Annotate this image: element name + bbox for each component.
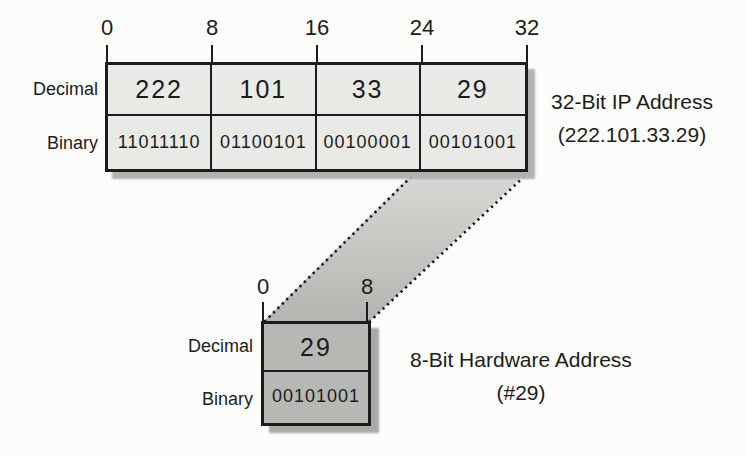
hw-bit-label-8: 8 bbox=[343, 274, 391, 300]
bit-tick-16 bbox=[316, 45, 318, 63]
bit-label-8: 8 bbox=[188, 15, 236, 41]
bit-label-16: 16 bbox=[293, 15, 341, 41]
hw-bit-tick-8 bbox=[366, 302, 368, 322]
ip-caption-line1: 32-Bit IP Address bbox=[531, 85, 733, 118]
ip-decimal-octet-2: 101 bbox=[212, 65, 316, 116]
ip-binary-octet-3: 00100001 bbox=[317, 116, 421, 169]
hardware-address-table: 29 00101001 bbox=[261, 321, 371, 426]
ip-decimal-octet-3: 33 bbox=[317, 65, 421, 116]
hw-caption-line1: 8-Bit Hardware Address bbox=[396, 343, 646, 376]
ip-address-caption: 32-Bit IP Address (222.101.33.29) bbox=[531, 85, 733, 151]
hw-decimal-row: 29 bbox=[264, 324, 368, 372]
hw-bit-label-0: 0 bbox=[239, 274, 287, 300]
bit-label-24: 24 bbox=[398, 15, 446, 41]
ip-binary-octet-1: 11011110 bbox=[108, 116, 212, 169]
ip-decimal-octet-4: 29 bbox=[421, 65, 525, 116]
bit-tick-0 bbox=[106, 45, 108, 63]
hw-binary-row-label: Binary bbox=[103, 389, 253, 410]
ip-decimal-row-label: Decimal bbox=[0, 79, 98, 100]
bit-label-32: 32 bbox=[503, 15, 551, 41]
funnel-shape bbox=[262, 170, 529, 323]
hardware-address-caption: 8-Bit Hardware Address (#29) bbox=[396, 343, 646, 409]
bit-tick-24 bbox=[421, 45, 423, 63]
hw-caption-line2: (#29) bbox=[396, 376, 646, 409]
ip-binary-row: 11011110 01100101 00100001 00101001 bbox=[108, 116, 525, 169]
hw-decimal-row-label: Decimal bbox=[103, 336, 253, 357]
ip-to-hardware-address-diagram: 0 8 16 24 32 222 101 33 29 11011110 0110… bbox=[0, 0, 746, 456]
ip-decimal-row: 222 101 33 29 bbox=[108, 65, 525, 116]
ip-binary-octet-2: 01100101 bbox=[212, 116, 316, 169]
hw-bit-tick-0 bbox=[262, 302, 264, 322]
bit-label-0: 0 bbox=[83, 15, 131, 41]
hw-decimal-octet: 29 bbox=[264, 324, 368, 372]
ip-caption-line2: (222.101.33.29) bbox=[531, 118, 733, 151]
hw-binary-octet: 00101001 bbox=[264, 372, 368, 421]
ip-decimal-octet-1: 222 bbox=[108, 65, 212, 116]
ip-address-table: 222 101 33 29 11011110 01100101 00100001… bbox=[105, 62, 528, 172]
ip-binary-row-label: Binary bbox=[0, 133, 98, 154]
hw-binary-row: 00101001 bbox=[264, 372, 368, 421]
bit-tick-32 bbox=[526, 45, 528, 63]
ip-binary-octet-4: 00101001 bbox=[421, 116, 525, 169]
bit-tick-8 bbox=[211, 45, 213, 63]
